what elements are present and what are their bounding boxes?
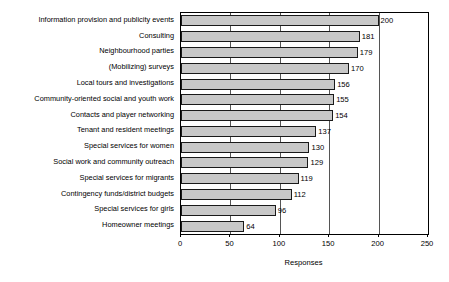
bar-value-label: 130 — [311, 142, 324, 153]
bar — [181, 47, 358, 58]
x-axis-tick-label: 150 — [322, 239, 335, 248]
category-label: Special services for women — [84, 142, 174, 150]
category-label: (Mobilizing) surveys — [109, 63, 174, 71]
bar — [181, 63, 349, 74]
category-label: Community-oriented social and youth work — [34, 95, 174, 103]
x-axis-tick — [229, 234, 230, 237]
category-label: Homeowner meetings — [102, 221, 174, 229]
bar-value-label: 154 — [335, 110, 348, 121]
bar-value-label: 129 — [310, 157, 323, 168]
x-axis-tick — [378, 234, 379, 237]
plot-area: 2001811791701561551541371301291191129664 — [180, 12, 429, 235]
x-axis-tick — [180, 234, 181, 237]
x-axis-tick — [279, 234, 280, 237]
x-axis-tick — [328, 234, 329, 237]
category-label: Neighbourhood parties — [99, 47, 174, 55]
category-label: Tenant and resident meetings — [77, 126, 174, 134]
bar-value-label: 156 — [337, 79, 350, 90]
bar-chart: Information provision and publicity even… — [0, 0, 449, 282]
bar — [181, 94, 334, 105]
bar — [181, 173, 299, 184]
bar-value-label: 179 — [360, 47, 373, 58]
x-axis-tick-label: 0 — [178, 239, 182, 248]
bar — [181, 157, 308, 168]
bar-value-label: 64 — [246, 221, 254, 232]
bars-layer: 2001811791701561551541371301291191129664 — [181, 13, 428, 234]
bar-value-label: 119 — [301, 173, 313, 184]
bar-value-label: 200 — [381, 15, 394, 26]
bar — [181, 126, 316, 137]
bar-value-label: 137 — [318, 126, 331, 137]
x-axis: 050100150200250 — [180, 234, 429, 254]
category-label: Consulting — [139, 32, 174, 40]
x-axis-tick — [427, 234, 428, 237]
category-label: Special services for girls — [94, 205, 174, 213]
bar-value-label: 170 — [351, 63, 364, 74]
x-axis-title: Responses — [180, 258, 427, 267]
bar-value-label: 181 — [362, 31, 375, 42]
bar — [181, 189, 292, 200]
category-axis-labels: Information provision and publicity even… — [0, 12, 177, 233]
category-label: Special services for migrants — [80, 174, 174, 182]
bar — [181, 205, 276, 216]
bar — [181, 221, 244, 232]
x-axis-tick-label: 200 — [371, 239, 384, 248]
bar-value-label: 96 — [278, 205, 286, 216]
bar — [181, 31, 360, 42]
category-label: Local tours and investigations — [77, 79, 174, 87]
x-axis-tick-label: 250 — [421, 239, 434, 248]
category-label: Contacts and player networking — [70, 111, 174, 119]
bar-value-label: 155 — [336, 94, 349, 105]
category-label: Information provision and publicity even… — [38, 16, 174, 24]
bar — [181, 15, 379, 26]
bar — [181, 79, 335, 90]
x-axis-tick-label: 50 — [225, 239, 233, 248]
x-axis-tick-label: 100 — [272, 239, 285, 248]
bar — [181, 110, 333, 121]
bar-value-label: 112 — [294, 189, 306, 200]
bar — [181, 142, 309, 153]
category-label: Social work and community outreach — [53, 158, 174, 166]
category-label: Contingency funds/district budgets — [61, 190, 174, 198]
